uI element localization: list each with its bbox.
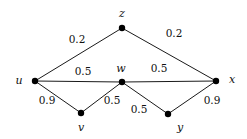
node-z [119,25,125,31]
node-label-y: y [176,121,184,134]
edge-weight-w-y: 0.5 [131,103,148,115]
edge-w-x [122,81,216,82]
edge-weight-y-x: 0.9 [204,94,221,106]
edge-weight-u-z: 0.2 [69,33,86,45]
node-v [78,110,84,116]
edge-weight-u-w: 0.5 [75,65,92,77]
edge-weights-group: 0.20.20.50.50.90.50.50.9 [39,27,221,115]
node-label-w: w [116,62,126,75]
node-label-v: v [78,121,85,134]
node-w [119,79,125,85]
node-labels-group: uzwxvy [15,7,235,134]
edge-weight-z-x: 0.2 [166,27,183,39]
node-label-z: z [118,7,125,20]
weighted-graph: 0.20.20.50.50.90.50.50.9 uzwxvy [0,0,247,139]
edge-u-w [35,81,122,82]
node-x [213,78,219,84]
node-u [32,78,38,84]
edge-weight-v-w: 0.5 [104,94,121,106]
edge-weight-w-x: 0.5 [151,62,168,74]
node-y [165,111,171,117]
edge-weight-u-v: 0.9 [39,94,56,106]
node-label-u: u [15,74,22,87]
node-label-x: x [229,73,236,86]
